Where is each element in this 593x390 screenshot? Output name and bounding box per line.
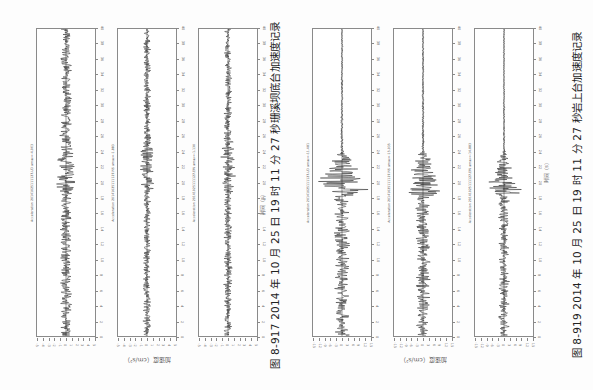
y-axis-label: 加速度（cm/s²） (124, 356, 171, 365)
seismogram-plot (36, 28, 96, 337)
plot-title: Acceleration 20141025111127.UD amax=-4.0… (28, 28, 36, 337)
seismogram-plot (117, 28, 177, 337)
time-axis-ticks: 0246810121416182022242628303234363840 (98, 28, 108, 337)
figure-caption: 图 8-919 2014 年 10 月 25 日 19 时 11 分 27 秒岩… (566, 0, 586, 390)
seismogram-plot (393, 28, 453, 337)
seismogram-plot (198, 28, 258, 337)
plot-title: Acceleration 20141025111127.EW amax=-14.… (466, 28, 474, 337)
document-page: Acceleration 20141025111127.UD amax=-4.0… (0, 0, 593, 390)
time-axis-ticks: 0246810121416182022242628303234363840 (455, 28, 465, 337)
amplitude-axis-ticks: -15-12-9-6-303691215 (474, 338, 534, 352)
amplitude-axis-ticks: -15-12-9-6-303691215 (312, 338, 372, 352)
amplitude-axis-ticks: -5-4-3-2-1012345 (36, 338, 96, 352)
seismogram-plot (474, 28, 534, 337)
time-axis-ticks: 0246810121416182022242628303234363840 (260, 28, 270, 337)
seismogram-plot (312, 28, 372, 337)
y-axis-label: 加速度（cm/s²） (400, 356, 447, 365)
time-axis-ticks: 0246810121416182022242628303234363840 (536, 28, 546, 337)
plot-title: Acceleration 20141025111127.NS amax=-1.8… (109, 28, 117, 337)
amplitude-axis-ticks: -5-4-3-2-1012345 (198, 338, 258, 352)
time-axis-ticks: 0246810121416182022242628303234363840 (179, 28, 189, 337)
plot-title: Acceleration 20141025111127.UD amax=-11.… (304, 28, 312, 337)
amplitude-axis-ticks: -5-4-3-2-1012345 (117, 338, 177, 352)
plot-title: Acceleration 20141025111127.NS amax=-15.… (385, 28, 393, 337)
amplitude-axis-ticks: -15-12-9-6-303691215 (393, 338, 453, 352)
plot-title: Acceleration 20141025111127.EW amax=-1.1… (190, 28, 198, 337)
time-axis-ticks: 0246810121416182022242628303234363840 (374, 28, 384, 337)
